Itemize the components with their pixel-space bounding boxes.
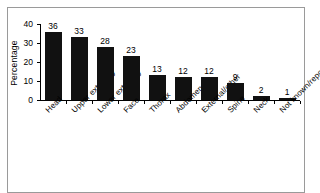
y-tick-mark (37, 62, 40, 63)
y-tick-mark (37, 81, 40, 82)
x-tick-mark (222, 101, 223, 104)
y-tick-label: 10 (17, 76, 33, 86)
y-tick-label: 0 (17, 95, 33, 105)
bar-value-label: 13 (145, 64, 169, 74)
x-tick-mark (248, 101, 249, 104)
plot-area: Percentage 01020304036Head33Upper extrem… (0, 0, 313, 180)
x-tick-mark (196, 101, 197, 104)
x-tick-mark (92, 101, 93, 104)
x-tick-mark (274, 101, 275, 104)
x-tick-mark (300, 101, 301, 104)
bar-value-label: 12 (197, 66, 221, 76)
bar (123, 56, 140, 100)
x-tick-mark (170, 101, 171, 104)
chart-figure: Percentage 01020304036Head33Upper extrem… (0, 0, 313, 180)
y-tick-label: 30 (17, 38, 33, 48)
bar-value-label: 2 (249, 85, 273, 95)
y-tick-label: 20 (17, 57, 33, 67)
y-tick-mark (37, 100, 40, 101)
y-axis-line (40, 24, 41, 101)
y-tick-mark (37, 24, 40, 25)
y-tick-mark (37, 43, 40, 44)
x-tick-mark (118, 101, 119, 104)
bar-value-label: 36 (41, 21, 65, 31)
x-tick-mark (66, 101, 67, 104)
y-tick-label: 40 (17, 19, 33, 29)
bar (45, 32, 62, 100)
bar-value-label: 9 (223, 72, 247, 82)
bar-value-label: 12 (171, 66, 195, 76)
bar-value-label: 23 (119, 45, 143, 55)
bar (71, 37, 88, 100)
bar-value-label: 33 (67, 26, 91, 36)
x-tick-mark (144, 101, 145, 104)
bar-value-label: 28 (93, 36, 117, 46)
